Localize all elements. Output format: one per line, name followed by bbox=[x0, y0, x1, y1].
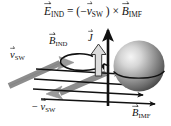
vector-b: B bbox=[122, 6, 129, 18]
bind-subscript: IND bbox=[55, 40, 67, 47]
label-current-j: J bbox=[88, 33, 93, 44]
vector-vsw: v bbox=[10, 50, 15, 61]
vsw-subscript: SW bbox=[15, 54, 25, 61]
equals-open-paren: = ( bbox=[64, 5, 80, 17]
e-symbol: E bbox=[44, 5, 51, 17]
magnetosphere-body bbox=[114, 41, 165, 92]
b-symbol: B bbox=[122, 5, 129, 17]
negative-solar-wind-arrow bbox=[46, 73, 106, 100]
b-subscript: IMF bbox=[129, 10, 142, 19]
label-bind: BIND bbox=[49, 36, 67, 47]
label-bimf: BIMF bbox=[132, 108, 150, 119]
label-negative-vsw: − vSW bbox=[32, 102, 55, 113]
label-vsw: vSW bbox=[10, 50, 25, 61]
vsw-symbol: v bbox=[10, 49, 15, 60]
vector-e: E bbox=[44, 6, 51, 18]
j-symbol: J bbox=[88, 32, 93, 43]
negvsw-prefix: − bbox=[32, 101, 41, 112]
v-subscript: SW bbox=[92, 10, 103, 19]
negvsw-subscript: SW bbox=[45, 106, 55, 113]
bimf-subscript: IMF bbox=[138, 112, 150, 119]
close-paren-cross: ) × bbox=[103, 5, 122, 17]
physics-diagram-figure: EIND = (−vSW ) × BIMF vSW BIND J − vSW B… bbox=[0, 0, 171, 126]
equation-e-ind: EIND = (−vSW ) × BIMF bbox=[44, 6, 142, 18]
e-subscript: IND bbox=[51, 10, 64, 19]
vector-j: J bbox=[88, 33, 93, 44]
